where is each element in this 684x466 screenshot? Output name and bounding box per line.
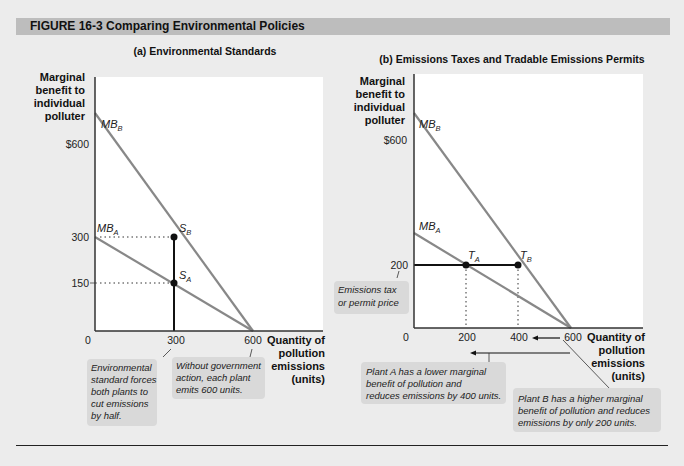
svg-text:pollution: pollution bbox=[279, 347, 326, 359]
svg-text:(units): (units) bbox=[611, 370, 645, 382]
svg-text:by half.: by half. bbox=[91, 410, 122, 421]
svg-text:200: 200 bbox=[458, 331, 476, 343]
panel-b-point-ta bbox=[463, 262, 470, 269]
svg-text:Marginal: Marginal bbox=[40, 71, 85, 83]
panel-b-ylabel: Marginal benefit to individual polluter bbox=[354, 75, 406, 126]
svg-text:individual: individual bbox=[354, 101, 405, 113]
svg-text:action, each plant: action, each plant bbox=[176, 372, 251, 383]
panel-a-ylabel: Marginal benefit to individual polluter bbox=[34, 71, 86, 122]
svg-text:Plant B has a higher marginal: Plant B has a higher marginal bbox=[518, 393, 644, 404]
bottom-rule bbox=[16, 445, 668, 446]
svg-text:0: 0 bbox=[85, 334, 91, 346]
svg-text:Quantity of: Quantity of bbox=[267, 334, 325, 346]
panel-a-yticks: $600 300 150 bbox=[66, 138, 90, 289]
svg-text:$600: $600 bbox=[384, 134, 408, 146]
svg-text:150: 150 bbox=[71, 277, 89, 289]
panel-b-xticks: 0 200 400 600 bbox=[403, 331, 582, 343]
panel-a-point-sb bbox=[171, 234, 178, 241]
svg-text:(units): (units) bbox=[291, 373, 325, 385]
svg-text:benefit of pollution and reduc: benefit of pollution and reduces bbox=[518, 405, 650, 416]
svg-text:emits 600 units.: emits 600 units. bbox=[176, 384, 243, 395]
svg-text:benefit to: benefit to bbox=[356, 88, 406, 100]
svg-text:individual: individual bbox=[34, 97, 85, 109]
panel-a-xticks: 0 300 600 bbox=[85, 334, 262, 346]
figure-canvas: (a) Environmental Standards Marginal ben… bbox=[0, 0, 684, 466]
svg-text:Emissions tax: Emissions tax bbox=[338, 284, 398, 295]
svg-text:600: 600 bbox=[564, 331, 582, 343]
panel-b-point-tb bbox=[515, 262, 522, 269]
svg-text:0: 0 bbox=[403, 331, 409, 343]
panel-b-yticks: $600 200 bbox=[384, 134, 409, 271]
svg-text:Quantity of: Quantity of bbox=[587, 331, 645, 343]
svg-text:300: 300 bbox=[167, 334, 185, 346]
svg-text:polluter: polluter bbox=[45, 110, 86, 122]
svg-text:Plant A has a lower marginal: Plant A has a lower marginal bbox=[366, 366, 487, 377]
svg-text:200: 200 bbox=[390, 259, 408, 271]
panel-b-note-plant-b: Plant B has a higher marginal benefit of… bbox=[518, 393, 650, 428]
svg-text:Marginal: Marginal bbox=[360, 75, 405, 87]
panel-b-plot-area bbox=[414, 74, 643, 328]
svg-text:600: 600 bbox=[244, 334, 262, 346]
panel-a-plot-area bbox=[95, 77, 323, 331]
svg-text:or permit price: or permit price bbox=[338, 297, 399, 308]
svg-text:pollution: pollution bbox=[599, 344, 646, 356]
svg-text:300: 300 bbox=[71, 231, 89, 243]
svg-text:emissions by only 200 units.: emissions by only 200 units. bbox=[518, 417, 637, 428]
svg-text:polluter: polluter bbox=[365, 114, 406, 126]
svg-text:$600: $600 bbox=[66, 138, 90, 150]
panel-b-title: (b) Emissions Taxes and Tradable Emissio… bbox=[379, 53, 644, 65]
panel-b: (b) Emissions Taxes and Tradable Emissio… bbox=[334, 53, 661, 432]
panel-a-point-sa bbox=[171, 280, 178, 287]
svg-text:both plants to: both plants to bbox=[91, 386, 148, 397]
svg-text:reduces emissions by 400 units: reduces emissions by 400 units. bbox=[366, 390, 501, 401]
panel-a-xlabel: Quantity of pollution emissions (units) bbox=[267, 334, 325, 385]
panel-a-title: (a) Environmental Standards bbox=[134, 45, 277, 57]
svg-text:standard forces: standard forces bbox=[91, 374, 157, 385]
panel-a: (a) Environmental Standards Marginal ben… bbox=[34, 45, 326, 426]
svg-text:cut emissions: cut emissions bbox=[91, 398, 149, 409]
svg-text:benefit to: benefit to bbox=[36, 84, 86, 96]
svg-text:benefit of pollution and: benefit of pollution and bbox=[366, 378, 462, 389]
svg-text:emissions: emissions bbox=[271, 360, 325, 372]
svg-text:Without government: Without government bbox=[176, 360, 261, 371]
svg-text:emissions: emissions bbox=[591, 357, 645, 369]
svg-text:Environmental: Environmental bbox=[91, 362, 153, 373]
svg-text:400: 400 bbox=[510, 331, 528, 343]
